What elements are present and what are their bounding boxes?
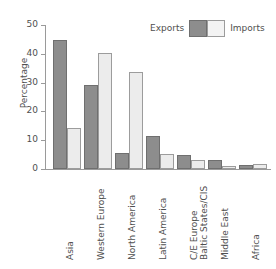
- bar-imports-2: [129, 72, 143, 169]
- bar-exports-0: [53, 40, 67, 169]
- bar-imports-0: [67, 128, 81, 169]
- bar-imports-5: [222, 166, 236, 169]
- y-tick-mark: [41, 169, 45, 170]
- x-axis-label-line: Africa: [251, 234, 261, 260]
- x-axis-line: [45, 169, 271, 170]
- bar-exports-2: [115, 153, 129, 169]
- y-tick-label: 40: [12, 48, 38, 58]
- y-tick-label: 50: [12, 19, 38, 29]
- x-axis-label-line: Latin America: [158, 198, 168, 260]
- x-axis-label-line: Western Europe: [96, 189, 106, 260]
- y-tick-mark: [41, 83, 45, 84]
- bar-imports-1: [98, 53, 112, 169]
- y-tick-label: 20: [12, 105, 38, 115]
- bar-imports-6: [253, 164, 267, 169]
- bar-exports-5: [208, 160, 222, 169]
- plot-area: [47, 25, 271, 169]
- y-tick-label: 30: [12, 77, 38, 87]
- y-tick-mark: [41, 54, 45, 55]
- y-tick-mark: [41, 140, 45, 141]
- x-axis-label-line: North America: [127, 195, 137, 260]
- y-tick-label: 10: [12, 134, 38, 144]
- x-axis-label-4: C/E EuropeBaltic States/CIS: [189, 186, 209, 260]
- x-axis-label-line: Baltic States/CIS: [199, 186, 209, 260]
- x-axis-label-1: Western Europe: [96, 189, 106, 260]
- bar-exports-6: [239, 165, 253, 169]
- bar-imports-3: [160, 154, 174, 169]
- y-tick-mark: [41, 25, 45, 26]
- bar-exports-1: [84, 85, 98, 169]
- x-axis-label-0: Asia: [65, 241, 75, 260]
- x-axis-label-6: Africa: [251, 234, 261, 260]
- bar-exports-4: [177, 155, 191, 169]
- y-tick-label: 0: [12, 163, 38, 173]
- x-axis-label-3: Latin America: [158, 198, 168, 260]
- x-axis-label-line: Asia: [65, 241, 75, 260]
- x-axis-label-line: Middle East: [220, 208, 230, 260]
- bar-imports-4: [191, 160, 205, 169]
- bar-exports-3: [146, 136, 160, 169]
- x-axis-label-line: C/E Europe: [189, 186, 199, 260]
- bar-chart: Exports Imports Percentage 01020304050 A…: [0, 0, 276, 269]
- y-tick-mark: [41, 111, 45, 112]
- x-axis-label-2: North America: [127, 195, 137, 260]
- y-axis-line: [45, 25, 46, 170]
- x-axis-label-5: Middle East: [220, 208, 230, 260]
